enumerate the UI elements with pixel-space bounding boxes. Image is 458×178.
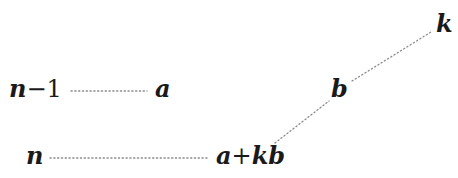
node-a-plus-kb-a: a [216, 141, 232, 170]
node-b-label: b [331, 74, 348, 103]
node-n-minus-1-var: n [9, 74, 26, 103]
node-a-plus-kb: a+kb [216, 144, 285, 168]
node-n: n [26, 144, 43, 168]
node-b: b [331, 77, 348, 101]
node-k-label: k [436, 9, 453, 38]
node-a: a [155, 77, 171, 101]
node-a-plus-kb-plus: + [232, 142, 252, 170]
edge-a-plus-kb-to-b [275, 101, 329, 143]
edge-b-to-k [352, 32, 431, 81]
node-n-minus-1-rest: −1 [26, 75, 61, 103]
node-a-label: a [155, 74, 171, 103]
node-n-minus-1: n−1 [9, 77, 62, 101]
node-k: k [436, 12, 453, 36]
node-a-plus-kb-kb: kb [252, 141, 285, 170]
diagram-canvas: n−1 a n a+kb b k [0, 0, 458, 178]
node-n-label: n [26, 141, 43, 170]
